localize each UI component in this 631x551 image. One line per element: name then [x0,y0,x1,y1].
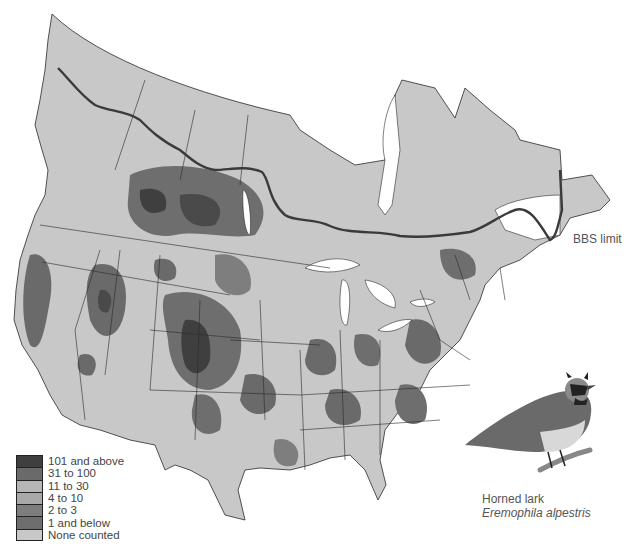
lake-michigan [340,280,350,325]
legend-swatch [16,492,43,504]
legend-label: None counted [48,529,120,541]
scientific-name: Eremophila alpestris [482,506,591,520]
legend-item: None counted [16,529,124,541]
legend-swatch [16,504,43,516]
legend-swatch [16,516,43,528]
legend-item: 11 to 30 [16,480,124,492]
horned-lark-illustration [465,372,596,470]
map-legend: 101 and above 31 to 100 11 to 30 4 to 10… [16,455,124,541]
legend-label: 101 and above [48,455,124,467]
legend-item: 1 and below [16,516,124,528]
legend-label: 31 to 100 [48,467,96,479]
legend-label: 11 to 30 [48,480,89,492]
legend-label: 2 to 3 [48,504,77,516]
legend-item: 31 to 100 [16,467,124,479]
legend-label: 4 to 10 [48,492,83,504]
species-caption: Horned lark Eremophila alpestris [482,492,591,520]
common-name: Horned lark [482,492,591,506]
legend-item: 101 and above [16,455,124,467]
legend-swatch [16,467,43,479]
legend-swatch [16,480,43,492]
legend-swatch [16,529,43,541]
bbs-limit-label: BBS limit [573,232,622,246]
legend-swatch [16,455,43,467]
legend-item: 4 to 10 [16,492,124,504]
legend-item: 2 to 3 [16,504,124,516]
legend-label: 1 and below [48,517,110,529]
